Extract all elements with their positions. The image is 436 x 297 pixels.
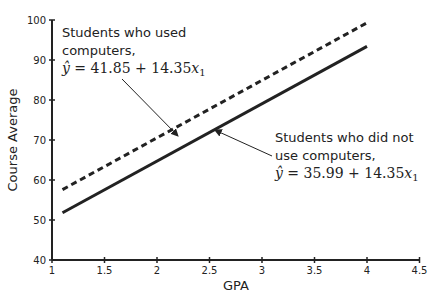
y-tick-label: 70 (33, 135, 46, 146)
x-tick-label: 4.5 (412, 265, 428, 276)
x-tick-label: 4 (364, 265, 370, 276)
annotation-text: Students who did not (275, 130, 414, 145)
annotation-computer-users: Students who usedcomputers,ŷ = 41.85 + 1… (61, 25, 206, 136)
regression-chart: 11.522.533.544.5405060708090100 Students… (0, 0, 436, 297)
y-tick-label: 40 (33, 255, 46, 266)
y-tick-label: 80 (33, 95, 46, 106)
y-tick-label: 90 (33, 55, 46, 66)
annotation-non-computer-users: Students who did notuse computers,ŷ = 35… (215, 130, 419, 183)
annotation-text: use computers, (275, 148, 376, 163)
x-tick-label: 2 (154, 265, 160, 276)
arrow-icon (215, 130, 272, 156)
arrow-icon (122, 79, 178, 136)
regression-equation: ŷ = 35.99 + 14.35x1 (274, 165, 419, 183)
y-tick-label: 60 (33, 175, 46, 186)
y-tick-label: 100 (27, 15, 46, 26)
x-axis-title: GPA (223, 278, 249, 293)
regression-equation: ŷ = 41.85 + 14.35x1 (61, 60, 206, 78)
x-tick-label: 1 (49, 265, 55, 276)
annotation-text: computers, (62, 43, 136, 58)
y-tick-label: 50 (33, 215, 46, 226)
x-tick-label: 1.5 (97, 265, 113, 276)
annotation-text: Students who used (62, 25, 186, 40)
x-tick-label: 2.5 (202, 265, 218, 276)
x-tick-label: 3.5 (307, 265, 323, 276)
x-tick-label: 3 (259, 265, 265, 276)
y-axis-title: Course Average (5, 89, 20, 192)
